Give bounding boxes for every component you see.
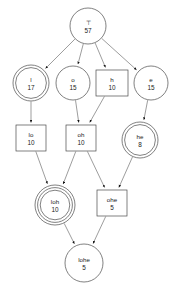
node-count-oh: 10: [77, 139, 85, 146]
node-label-lo: lo: [29, 131, 34, 138]
node-label-lohe: lohe: [78, 256, 90, 263]
node-label-oh: oh: [78, 131, 85, 138]
node-shape-circle-ring-1: [65, 244, 103, 282]
node-e[interactable]: e15: [134, 66, 168, 100]
edge-ohe-to-lohe: [93, 217, 106, 244]
node-count-loh: 10: [51, 206, 59, 213]
edge-top-to-h: [95, 43, 105, 67]
edge-lo-to-loh: [36, 152, 48, 184]
node-shape-rect: [97, 190, 127, 216]
node-o[interactable]: o15: [56, 66, 90, 100]
node-label-ohe: ohe: [107, 196, 118, 203]
node-shape-circle-ring-1: [70, 8, 106, 44]
node-shape-circle-ring-1: [56, 66, 90, 100]
edge-e-to-he: [144, 100, 148, 120]
node-shape-circle-ring-3: [40, 190, 70, 220]
node-label-he: he: [137, 133, 144, 140]
node-ohe[interactable]: ohe5: [97, 190, 127, 216]
node-count-l: 17: [27, 84, 35, 91]
edge-top-to-o: [78, 44, 83, 64]
node-oh[interactable]: oh10: [66, 125, 96, 151]
node-count-o: 15: [69, 84, 77, 91]
node-lohe[interactable]: lohe5: [65, 244, 103, 282]
edge-loh-to-lohe: [64, 223, 74, 243]
node-h[interactable]: h10: [96, 70, 128, 96]
node-shape-circle-ring-2: [16, 68, 47, 99]
node-he[interactable]: he8: [122, 122, 158, 158]
node-shape-circle-ring-1: [134, 66, 168, 100]
node-shape-rect: [16, 125, 46, 151]
node-count-lohe: 5: [82, 264, 86, 271]
edge-top-to-l: [46, 39, 75, 68]
node-label-top: ⊤: [86, 19, 91, 26]
node-label-loh: loh: [51, 198, 60, 205]
node-shape-circle-ring-2: [125, 125, 156, 156]
node-label-h: h: [110, 76, 114, 83]
edge-he-to-ohe: [119, 157, 133, 187]
node-count-e: 15: [147, 84, 155, 91]
node-top[interactable]: ⊤57: [70, 8, 106, 44]
node-label-o: o: [71, 76, 75, 83]
node-loh[interactable]: loh10: [35, 185, 75, 225]
node-count-he: 8: [138, 141, 142, 148]
lattice-diagram-canvas: ⊤57l17o15h10e15lo10oh10he8loh10ohe5lohe5: [0, 0, 175, 291]
node-lo[interactable]: lo10: [16, 125, 46, 151]
nodes-layer: ⊤57l17o15h10e15lo10oh10he8loh10ohe5lohe5: [13, 8, 168, 282]
node-label-e: e: [149, 76, 153, 83]
edge-top-to-e: [102, 38, 137, 69]
node-count-ohe: 5: [110, 204, 114, 211]
edge-o-to-oh: [76, 100, 79, 122]
node-count-lo: 10: [27, 139, 35, 146]
node-shape-rect: [66, 125, 96, 151]
node-l[interactable]: l17: [13, 65, 49, 101]
node-count-h: 10: [108, 84, 116, 91]
node-label-l: l: [30, 76, 31, 83]
edge-h-to-oh: [90, 97, 105, 123]
graph-svg: ⊤57l17o15h10e15lo10oh10he8loh10ohe5lohe5: [0, 0, 175, 291]
edge-oh-to-ohe: [87, 152, 104, 188]
node-shape-rect: [96, 70, 128, 96]
node-count-top: 57: [84, 27, 92, 34]
edge-oh-to-loh: [63, 152, 76, 184]
